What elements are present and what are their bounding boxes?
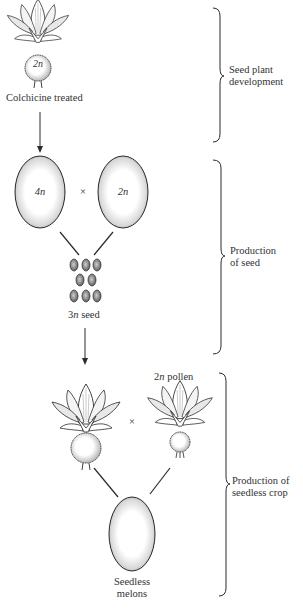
melon-4n-label: 4n: [28, 186, 52, 198]
pollen-label-suffix: pollen: [165, 371, 194, 382]
stage2-bracket-label: Production of seed: [230, 245, 276, 269]
stage2-bracket-line1: Production: [230, 245, 276, 257]
cross-line-left: [60, 232, 79, 255]
cross-line-right: [150, 468, 170, 494]
colchicine-caption: Colchicine treated: [6, 92, 86, 104]
flower-3n-icon: [52, 384, 120, 470]
arrow-down-icon: [82, 328, 88, 365]
cross-line-left: [94, 468, 118, 497]
bracket-production-of-seedless-crop: [219, 373, 230, 596]
cross-symbol: ×: [78, 186, 88, 198]
stage2-bracket-line2: of seed: [230, 257, 276, 269]
stage3-bracket-line1: Production of: [232, 475, 289, 487]
seeds-3n-icon: [70, 259, 101, 302]
cross-line-right: [94, 232, 113, 255]
pollen-2n-label: 2n pollen: [154, 371, 193, 383]
flower-2n-pollen-icon: [148, 381, 213, 458]
melon-2n-label: 2n: [111, 186, 135, 198]
seed-3n-label: 3n seed: [68, 309, 100, 321]
plant-ploidy-label: 2n: [28, 58, 48, 70]
stage1-bracket-line2: development: [229, 76, 283, 88]
seedless-caption-line1: Seedless: [100, 576, 164, 588]
bracket-production-of-seed: [213, 160, 225, 354]
seedless-caption-line2: melons: [100, 588, 164, 600]
colchicine-treated-flower-icon: [7, 0, 68, 88]
cross-symbol: ×: [127, 416, 137, 428]
seed-label-suffix: seed: [79, 309, 100, 320]
stage1-bracket-label: Seed plant development: [229, 64, 283, 88]
stage3-bracket-label: Production of seedless crop: [232, 475, 289, 499]
seedless-melon: [109, 497, 155, 571]
bracket-seed-plant-development: [213, 8, 224, 142]
seedless-melons-caption: Seedless melons: [100, 576, 164, 600]
stage3-bracket-line2: seedless crop: [232, 487, 289, 499]
arrow-down-icon: [37, 112, 43, 153]
stage1-bracket-line1: Seed plant: [229, 64, 283, 76]
